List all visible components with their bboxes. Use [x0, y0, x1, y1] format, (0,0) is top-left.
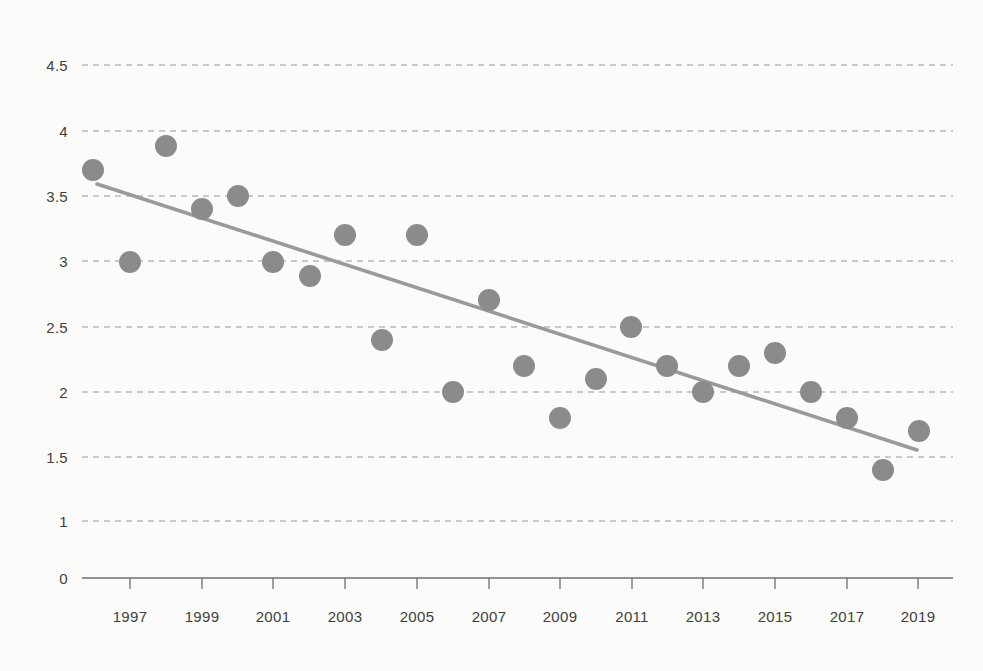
x-axis-tick-label: 2003 — [310, 608, 380, 625]
data-point — [478, 289, 500, 311]
data-point — [620, 316, 642, 338]
x-axis-tick-label: 2017 — [812, 608, 882, 625]
data-point — [764, 342, 786, 364]
data-point — [728, 355, 750, 377]
data-point — [692, 381, 714, 403]
x-axis-tick-label: 2013 — [668, 608, 738, 625]
x-axis-tick-label: 2001 — [238, 608, 308, 625]
x-axis-tick-label: 2009 — [525, 608, 595, 625]
y-axis-tick-label: 2.5 — [8, 319, 68, 336]
data-point — [656, 355, 678, 377]
data-point — [299, 265, 321, 287]
data-point — [585, 368, 607, 390]
data-point — [371, 329, 393, 351]
y-axis-tick-label: 2 — [8, 384, 68, 401]
data-point — [227, 185, 249, 207]
data-point — [82, 159, 104, 181]
y-axis-tick-label: 0 — [8, 570, 68, 587]
x-axis-tick-label: 1997 — [95, 608, 165, 625]
data-point — [155, 135, 177, 157]
data-points — [82, 135, 930, 481]
data-point — [406, 224, 428, 246]
data-point — [908, 420, 930, 442]
x-axis-tick-label: 2005 — [382, 608, 452, 625]
trend-line — [97, 184, 917, 450]
data-point — [191, 198, 213, 220]
x-axis-tick-label: 2015 — [740, 608, 810, 625]
y-axis-tick-label: 1.5 — [8, 449, 68, 466]
data-point — [549, 407, 571, 429]
y-axis-tick-label: 4 — [8, 123, 68, 140]
data-point — [513, 355, 535, 377]
x-axis-tick-label: 2019 — [883, 608, 953, 625]
data-point — [334, 224, 356, 246]
gridlines — [82, 65, 953, 521]
data-point — [119, 251, 141, 273]
x-axis-tick-label: 2011 — [597, 608, 667, 625]
y-axis-tick-label: 4.5 — [8, 57, 68, 74]
data-point — [442, 381, 464, 403]
chart-plot-area — [0, 0, 983, 671]
data-point — [836, 407, 858, 429]
y-axis-tick-label: 3.5 — [8, 188, 68, 205]
trend-line-segment — [97, 184, 917, 450]
x-axis-tick-label: 2007 — [454, 608, 524, 625]
scatter-chart: 4.543.532.521.510 1997199920012003200520… — [0, 0, 983, 671]
y-axis-tick-label: 3 — [8, 253, 68, 270]
x-axis-ticks — [130, 578, 918, 589]
x-axis-tick-label: 1999 — [167, 608, 237, 625]
y-axis-tick-label: 1 — [8, 513, 68, 530]
data-point — [800, 381, 822, 403]
data-point — [872, 459, 894, 481]
data-point — [262, 251, 284, 273]
